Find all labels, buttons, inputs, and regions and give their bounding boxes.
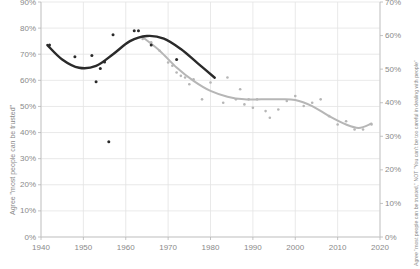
- y-axis-right-tick-label: 50%: [385, 65, 415, 74]
- x-axis-tick-label: 1950: [67, 243, 99, 252]
- data-point: [95, 80, 98, 83]
- data-point: [150, 41, 153, 44]
- x-axis-tick-label: 1940: [25, 243, 57, 252]
- data-point: [285, 100, 288, 103]
- y-axis-right-tick-label: 60%: [385, 31, 415, 40]
- y-axis-right-tick-label: 30%: [385, 132, 415, 141]
- data-point: [137, 29, 140, 32]
- series-light-series: [141, 37, 372, 131]
- x-axis-tick-label: 1990: [237, 243, 269, 252]
- x-axis-tick-label: 1970: [152, 243, 184, 252]
- data-point: [353, 128, 356, 131]
- y-axis-right-tick-label: 40%: [385, 98, 415, 107]
- y-axis-right-tick-label: 20%: [385, 165, 415, 174]
- data-point: [336, 123, 339, 126]
- data-point: [328, 115, 331, 118]
- data-point: [311, 101, 314, 104]
- data-point: [99, 67, 102, 70]
- x-axis-tick-label: 1980: [195, 243, 227, 252]
- trend-line-dark-series: [47, 36, 214, 78]
- data-point: [48, 44, 51, 47]
- x-axis-tick-label: 1960: [110, 243, 142, 252]
- data-point: [239, 88, 242, 91]
- data-point: [192, 78, 195, 81]
- y-axis-left-tick-label: 70%: [4, 50, 36, 59]
- x-axis-tick-label: 2020: [364, 243, 396, 252]
- y-axis-left-tick-label: 90%: [4, 0, 36, 7]
- data-point: [345, 120, 348, 123]
- data-point: [103, 61, 106, 64]
- data-point: [222, 101, 225, 104]
- data-point: [362, 128, 365, 131]
- y-axis-right-tick-label: 10%: [385, 199, 415, 208]
- data-point: [150, 44, 153, 47]
- data-point: [256, 98, 259, 101]
- data-point: [370, 123, 373, 126]
- series-dark-series: [47, 29, 214, 143]
- data-point: [171, 64, 174, 67]
- y-axis-left-tick-label: 80%: [4, 24, 36, 33]
- data-point: [201, 98, 204, 101]
- data-point: [73, 55, 76, 58]
- data-point: [107, 140, 110, 143]
- data-point: [141, 38, 144, 41]
- data-point: [235, 98, 238, 101]
- data-point: [264, 110, 267, 113]
- data-point: [277, 108, 280, 111]
- data-point: [133, 29, 136, 32]
- y-axis-right-tick-label: 0%: [385, 233, 415, 242]
- trend-line-light-series: [143, 37, 372, 128]
- data-point: [184, 76, 187, 79]
- data-point: [158, 49, 161, 52]
- data-point: [226, 76, 229, 79]
- y-axis-right-title: Agree "most people can be trusted," NOT …: [412, 60, 420, 266]
- data-point: [247, 98, 250, 101]
- x-axis-tick-label: 2010: [322, 243, 354, 252]
- gridlines: [41, 2, 380, 237]
- y-axis-left-tick-label: 60%: [4, 76, 36, 85]
- data-point: [180, 75, 183, 78]
- data-point: [269, 117, 272, 120]
- data-point: [209, 81, 212, 84]
- x-axis-tick-label: 2000: [279, 243, 311, 252]
- data-point: [294, 95, 297, 98]
- data-point: [112, 33, 115, 36]
- data-point: [252, 106, 255, 109]
- y-axis-right-tick-label: 70%: [385, 0, 415, 7]
- y-axis-left-tick-label: 0%: [4, 233, 36, 242]
- data-point: [302, 105, 305, 108]
- data-point: [167, 61, 170, 64]
- data-point: [90, 54, 93, 57]
- data-point: [188, 83, 191, 86]
- data-point: [243, 103, 246, 106]
- data-point: [175, 58, 178, 61]
- data-point: [175, 71, 178, 74]
- data-point: [319, 98, 322, 101]
- y-axis-left-title: Agree "most people can be trusted": [9, 105, 17, 215]
